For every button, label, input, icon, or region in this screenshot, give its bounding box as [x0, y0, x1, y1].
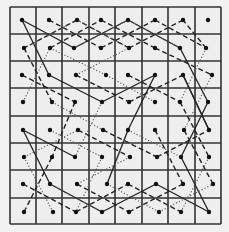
center-dot [155, 155, 159, 159]
center-dot [153, 18, 157, 22]
center-dot [126, 182, 130, 186]
center-dot [207, 155, 211, 159]
center-dot [50, 155, 54, 159]
center-dot [153, 46, 157, 50]
center-dot [207, 128, 211, 132]
center-dot [73, 100, 77, 104]
center-dot [181, 18, 185, 22]
center-dot [47, 18, 51, 22]
center-dot [76, 128, 80, 132]
center-dot [127, 210, 131, 214]
center-dot [48, 182, 52, 186]
center-dot [105, 182, 109, 186]
center-dot [126, 73, 130, 77]
center-dot [178, 46, 182, 50]
center-dot [181, 182, 185, 186]
center-dot [48, 46, 52, 50]
center-dot [74, 73, 78, 77]
center-dot [179, 155, 183, 159]
center-dot [210, 73, 214, 77]
center-dot [21, 100, 25, 104]
center-dot [179, 210, 183, 214]
center-dot [100, 210, 104, 214]
knight-tour-diagram [0, 0, 229, 232]
center-dot [99, 18, 103, 22]
center-dot [50, 100, 54, 104]
center-dot [20, 18, 24, 22]
center-dot [48, 128, 52, 132]
center-dot [47, 73, 51, 77]
center-dot [204, 46, 208, 50]
center-dot [74, 210, 78, 214]
center-dot [153, 128, 157, 132]
center-dot [127, 100, 131, 104]
center-dot [100, 155, 104, 159]
center-dot [22, 46, 26, 50]
center-dot [51, 210, 55, 214]
center-dot [127, 46, 131, 50]
center-dot [154, 182, 158, 186]
center-dot [75, 182, 79, 186]
center-dot [182, 128, 186, 132]
center-dot [153, 73, 157, 77]
center-dot [178, 100, 182, 104]
center-dot [21, 128, 25, 132]
center-dot [207, 210, 211, 214]
center-dot [99, 46, 103, 50]
center-dot [21, 182, 25, 186]
center-dot [101, 128, 105, 132]
center-dot [157, 210, 161, 214]
center-dot [206, 18, 210, 22]
center-dot [211, 182, 215, 186]
center-dot [153, 100, 157, 104]
center-dot [22, 155, 26, 159]
center-dot [128, 155, 132, 159]
center-dot [72, 46, 76, 50]
center-dot [126, 18, 130, 22]
center-dot [75, 18, 79, 22]
center-dot [104, 73, 108, 77]
center-dot [22, 210, 26, 214]
center-dot [20, 73, 24, 77]
center-dot [126, 128, 130, 132]
center-dot [73, 155, 77, 159]
center-dot [181, 73, 185, 77]
center-dot [206, 100, 210, 104]
center-dot [100, 100, 104, 104]
